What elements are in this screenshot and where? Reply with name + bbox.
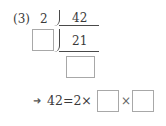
- quotient-answer-box[interactable]: [66, 56, 95, 78]
- times-sign: ×: [121, 95, 131, 107]
- division-bracket-1: [54, 10, 60, 26]
- division-line-2: [59, 51, 99, 52]
- dividend-1: 42: [72, 12, 87, 24]
- division-bracket-2: [54, 29, 60, 52]
- divisor-1: 2: [40, 13, 48, 25]
- problem-number: (3): [13, 13, 30, 25]
- dividend-2: 21: [72, 35, 87, 47]
- factor-1-answer-box[interactable]: [97, 90, 119, 112]
- divisor-2-answer-box[interactable]: [32, 29, 54, 51]
- arrow-icon: ➜: [33, 95, 41, 107]
- equation-prefix: 42=2×: [47, 95, 92, 107]
- factor-2-answer-box[interactable]: [132, 90, 154, 112]
- division-line-1: [59, 25, 99, 26]
